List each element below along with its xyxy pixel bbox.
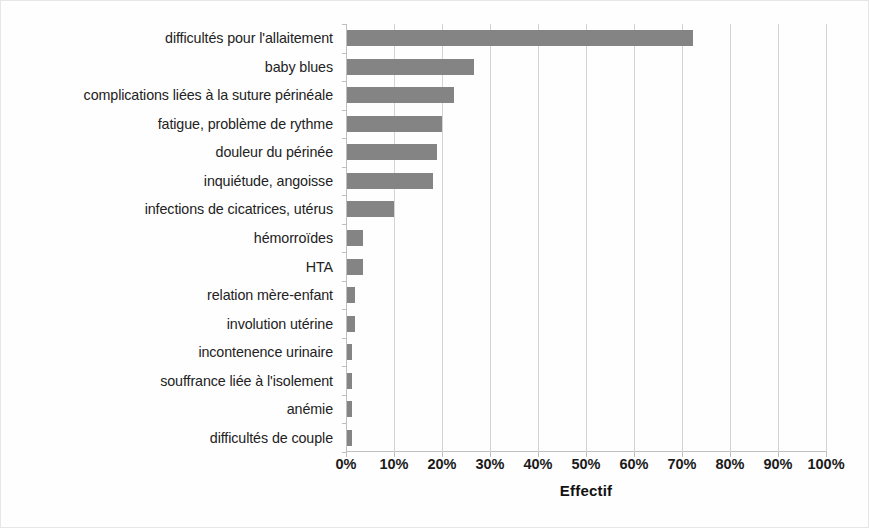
- y-axis-tick: [342, 53, 346, 54]
- x-axis-tick-label: 40%: [523, 456, 552, 472]
- y-axis-tick: [342, 138, 346, 139]
- bar-chart: difficultés pour l'allaitementbaby blues…: [1, 1, 869, 528]
- gridline: [586, 24, 587, 452]
- bar: [347, 173, 433, 189]
- gridline: [634, 24, 635, 452]
- category-label: complications liées à la suture périnéal…: [9, 87, 333, 103]
- y-axis-tick: [342, 252, 346, 253]
- gridline: [490, 24, 491, 452]
- bar: [347, 259, 363, 275]
- chart-screenshot: difficultés pour l'allaitementbaby blues…: [0, 0, 869, 528]
- gridline: [682, 24, 683, 452]
- gridline: [538, 24, 539, 452]
- y-axis-tick: [342, 167, 346, 168]
- gridline: [826, 24, 827, 452]
- category-label: difficultés de couple: [9, 430, 333, 446]
- x-axis-tick-label: 0%: [336, 456, 357, 472]
- x-axis-title: Effectif: [346, 482, 826, 499]
- gridline: [730, 24, 731, 452]
- bar: [347, 373, 352, 389]
- x-axis-tick-label: 100%: [807, 456, 844, 472]
- x-axis-tick-label: 80%: [715, 456, 744, 472]
- y-axis-tick: [342, 423, 346, 424]
- category-label: relation mère-enfant: [9, 287, 333, 303]
- bar: [347, 87, 454, 103]
- category-label: involution utérine: [9, 316, 333, 332]
- y-axis-tick: [342, 338, 346, 339]
- y-axis-tick: [342, 309, 346, 310]
- x-axis-tick-label: 90%: [763, 456, 792, 472]
- x-axis-tick-label: 10%: [379, 456, 408, 472]
- bar: [347, 30, 693, 46]
- y-axis-tick: [342, 224, 346, 225]
- x-axis-tick-label: 20%: [427, 456, 456, 472]
- y-axis-tick: [342, 195, 346, 196]
- x-axis-tick-label: 30%: [475, 456, 504, 472]
- bar: [347, 287, 355, 303]
- bar: [347, 430, 352, 446]
- y-axis-tick: [342, 281, 346, 282]
- y-axis-tick: [342, 395, 346, 396]
- x-axis-tick-label: 50%: [571, 456, 600, 472]
- category-label: fatigue, problème de rythme: [9, 116, 333, 132]
- y-axis-tick: [342, 24, 346, 25]
- bar: [347, 116, 442, 132]
- category-label: difficultés pour l'allaitement: [9, 30, 333, 46]
- y-axis-tick: [342, 452, 346, 453]
- bar: [347, 201, 394, 217]
- bar: [347, 316, 355, 332]
- bar: [347, 144, 437, 160]
- x-axis-tick-label: 60%: [619, 456, 648, 472]
- category-label: baby blues: [9, 59, 333, 75]
- category-label: douleur du périnée: [9, 144, 333, 160]
- x-axis-tick-label: 70%: [667, 456, 696, 472]
- category-label: hémorroïdes: [9, 230, 333, 246]
- bar: [347, 230, 363, 246]
- category-label: HTA: [9, 259, 333, 275]
- y-axis-tick: [342, 81, 346, 82]
- bar: [347, 59, 474, 75]
- bar: [347, 344, 352, 360]
- value-axis-labels: 0%10%20%30%40%50%60%70%80%90%100%: [346, 456, 826, 476]
- category-label: inquiétude, angoisse: [9, 173, 333, 189]
- y-axis-tick: [342, 110, 346, 111]
- category-label: incontenence urinaire: [9, 344, 333, 360]
- y-axis-tick: [342, 366, 346, 367]
- category-label: infections de cicatrices, utérus: [9, 201, 333, 217]
- gridline: [778, 24, 779, 452]
- category-label: souffrance liée à l'isolement: [9, 373, 333, 389]
- category-label: anémie: [9, 401, 333, 417]
- bar: [347, 401, 352, 417]
- category-axis-labels: difficultés pour l'allaitementbaby blues…: [9, 24, 333, 452]
- plot-area: [346, 24, 826, 452]
